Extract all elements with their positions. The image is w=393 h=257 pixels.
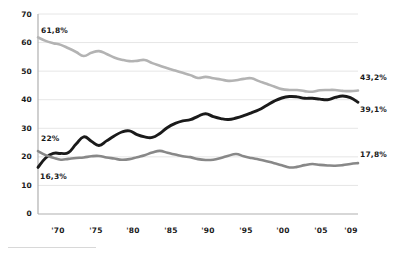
ytick-label-40: 40 [14,95,32,104]
xtick-label-75: '75 [85,226,107,235]
annotation-upper-end: 43,2% [360,73,387,82]
xtick-label-05: '05 [310,226,332,235]
series-line-upper [38,37,358,91]
xtick-label-90: '90 [197,226,219,235]
xtick-label-95: '95 [235,226,257,235]
xtick-label-70: '70 [47,226,69,235]
annotation-middle-end: 39,1% [360,105,387,114]
series-line-lower [38,151,358,168]
ytick-label-50: 50 [14,67,32,76]
annotation-middle-start: 16,3% [40,172,67,181]
ytick-label-30: 30 [14,124,32,133]
annotation-lower-end: 17,8% [360,150,387,159]
chart-container: 70 60 50 40 30 20 10 0 '70 '75 '80 '85 '… [0,0,393,257]
annotation-upper-start: 61,8% [41,26,68,35]
series-lines [38,37,358,167]
xtick-label-09: '09 [340,226,362,235]
ytick-label-60: 60 [14,38,32,47]
xtick-label-85: '85 [160,226,182,235]
footer-divider [8,247,96,248]
line-chart-plot [0,0,393,257]
ytick-label-70: 70 [14,10,32,19]
xtick-label-00: '00 [272,226,294,235]
ytick-label-10: 10 [14,181,32,190]
axis-lines [38,14,358,214]
ytick-label-20: 20 [14,152,32,161]
annotation-lower-start: 22% [41,134,60,143]
ytick-label-0: 0 [14,209,32,218]
xtick-label-80: '80 [122,226,144,235]
